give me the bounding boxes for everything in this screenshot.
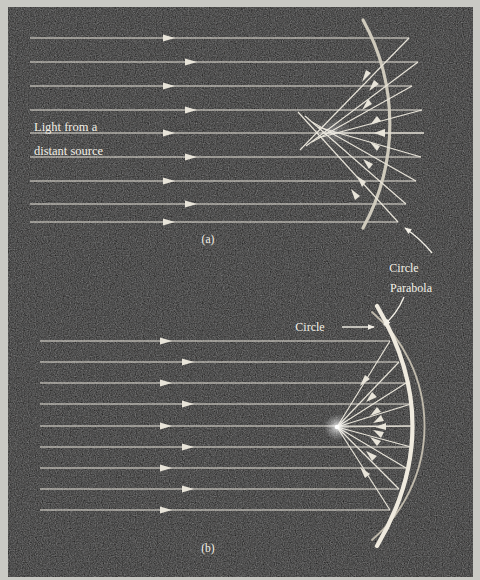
panel-a-caustic-blur bbox=[313, 118, 353, 146]
panel-b-label: (b) bbox=[201, 542, 215, 555]
panel-a-circle-label: Circle bbox=[389, 261, 418, 275]
panel-b-parabola-label: Parabola bbox=[390, 281, 433, 295]
source-label-line1: Light from a bbox=[34, 120, 98, 134]
figure-canvas: Circle (a) Light from a distant source bbox=[0, 0, 480, 580]
optics-figure: Circle (a) Light from a distant source bbox=[0, 0, 480, 580]
panel-a-label: (a) bbox=[202, 233, 215, 246]
panel-b-circle-label: Circle bbox=[295, 320, 324, 334]
source-label-line2: distant source bbox=[34, 144, 104, 158]
panel-b-focus-point bbox=[335, 425, 339, 429]
